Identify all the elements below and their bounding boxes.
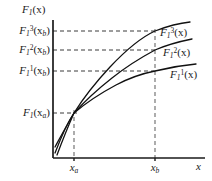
curve-label-f1-superscript-2: F12(x) <box>163 47 190 60</box>
x-axis-title: x <box>196 161 201 172</box>
curve-f1-superscript-3 <box>55 22 190 153</box>
vertical-guide-lines <box>74 29 155 158</box>
y-tick-label-f1-xb: F11(xb) <box>2 65 50 78</box>
y-axis-title: F1(x) <box>22 4 45 16</box>
x-tick-label-xb: xb <box>151 162 160 174</box>
x-tick-label-xa: xa <box>70 162 79 174</box>
curve-label-f1-superscript-1: F11(x) <box>170 69 197 82</box>
y-tick-label-f-xa: F1(xa) <box>2 107 50 119</box>
y-tick-label-f3-xb: F13(xb) <box>2 25 50 38</box>
curve-group <box>55 22 196 155</box>
curve-label-f1-superscript-3: F13(x) <box>160 27 187 40</box>
figure-container: F1(x) F13(xb) F12(xb) F11(xb) F1(xa) xa … <box>0 0 212 181</box>
y-tick-label-f2-xb: F12(xb) <box>2 44 50 57</box>
